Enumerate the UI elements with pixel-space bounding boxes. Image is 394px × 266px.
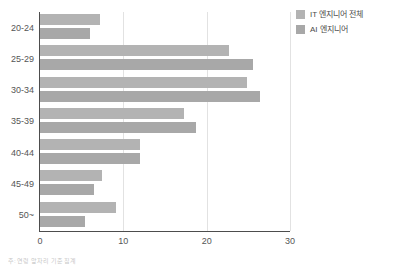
gridline-30 [290,12,291,231]
bar[interactable] [40,122,196,133]
plot-area: 20-2425-2930-3435-3940-4445-4950~ 010203… [40,12,290,231]
legend-item-it-engineers-total[interactable]: IT 엔지니어 전체 [296,8,388,21]
y-axis-label: 40-44 [11,148,34,158]
bar-group: 40-44 [40,137,290,168]
x-tick-label: 0 [37,236,42,246]
x-axis-line [39,231,290,232]
bar-group: 50~ [40,200,290,231]
bar[interactable] [40,202,116,213]
bar[interactable] [40,28,90,39]
y-axis-label: 50~ [19,210,34,220]
bar[interactable] [40,59,253,70]
bar[interactable] [40,91,260,102]
legend-swatch-icon-series-1 [296,25,305,34]
bar[interactable] [40,184,94,195]
chart-footnote: 주: 연령 앞자리 기준 집계 [8,258,76,266]
legend-label-series-1: AI 엔지니어 [310,25,348,34]
bar[interactable] [40,216,85,227]
bar-group: 35-39 [40,106,290,137]
chart-legend: IT 엔지니어 전체 AI 엔지니어 [296,8,388,38]
y-axis-label: 25-29 [11,54,34,64]
legend-item-ai-engineers[interactable]: AI 엔지니어 [296,23,388,36]
bar[interactable] [40,45,229,56]
bar[interactable] [40,153,140,164]
bar-group: 20-24 [40,12,290,43]
y-axis-label: 20-24 [11,23,34,33]
bar-group: 30-34 [40,75,290,106]
bar-group: 25-29 [40,43,290,74]
x-tick-label: 30 [285,236,295,246]
legend-swatch-icon-series-0 [296,10,305,19]
legend-label-series-0: IT 엔지니어 전체 [310,10,363,19]
y-axis-label: 35-39 [11,116,34,126]
bar[interactable] [40,77,247,88]
x-tick-label: 10 [118,236,128,246]
y-axis-label: 30-34 [11,85,34,95]
bar[interactable] [40,139,140,150]
x-tick-label: 20 [202,236,212,246]
bar[interactable] [40,108,184,119]
bar[interactable] [40,14,100,25]
y-axis-label: 45-49 [11,179,34,189]
bar-chart: IT 엔지니어 전체 AI 엔지니어 20-2425-2930-3435-394… [0,0,394,266]
bar[interactable] [40,170,102,181]
bar-group: 45-49 [40,168,290,199]
